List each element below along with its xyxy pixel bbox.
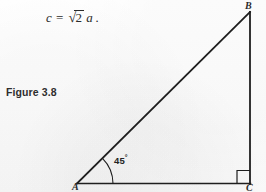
angle-value: 45 — [114, 155, 125, 166]
degree-symbol-icon: ° — [125, 154, 128, 161]
figure-page: c=√2a. Figure 3.8 A B C 45° — [0, 0, 266, 192]
vertex-label-a: A — [72, 181, 79, 192]
angle-label-45-degrees: 45° — [114, 155, 128, 166]
vertex-label-b: B — [245, 0, 252, 11]
triangle-diagram — [0, 0, 266, 192]
vertex-label-c: C — [246, 182, 253, 192]
angle-arc-45-degrees — [103, 158, 114, 183]
triangle-side-hypotenuse-ab — [77, 12, 250, 184]
